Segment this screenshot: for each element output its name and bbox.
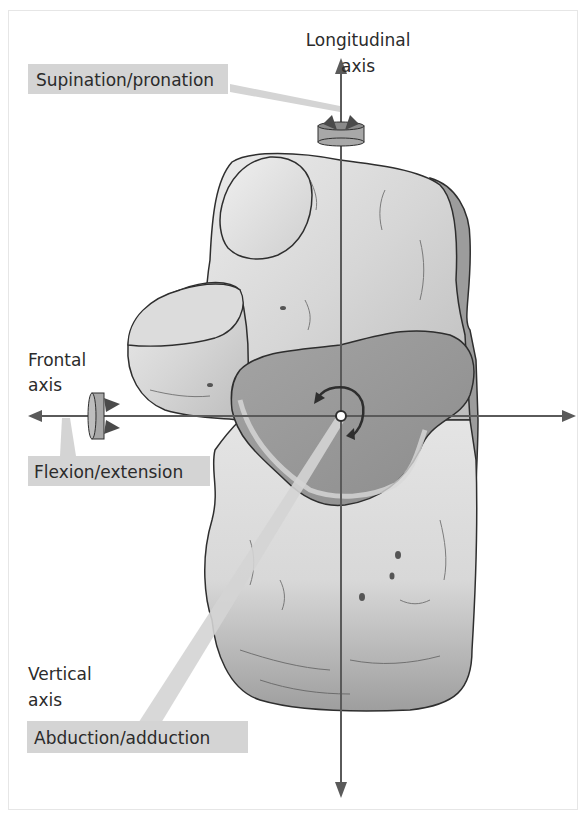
vertical-axis-label-line1: Vertical xyxy=(28,664,92,684)
longitudinal-axis-label-line2: axis xyxy=(341,56,375,76)
flexion-extension-label: Flexion/extension xyxy=(34,462,183,482)
abduction-adduction-label: Abduction/adduction xyxy=(34,728,210,748)
supination-pronation-label: Supination/pronation xyxy=(36,70,214,90)
frontal-axis-label-line1: Frontal xyxy=(28,350,86,370)
longitudinal-axis-callout-pointer xyxy=(230,84,340,112)
talus-axes-diagram: Supination/pronation Flexion/extension A… xyxy=(0,0,587,822)
longitudinal-axis-arrowhead-bottom xyxy=(335,782,347,798)
axes-intersection-point xyxy=(336,411,346,421)
frontal-axis-label-line2: axis xyxy=(28,375,62,395)
frontal-axis-callout-pointer xyxy=(60,418,76,456)
vertical-axis-label-line2: axis xyxy=(28,690,62,710)
frontal-axis-arrowhead-right xyxy=(562,410,576,422)
longitudinal-axis-label-line1: Longitudinal xyxy=(306,30,411,50)
frontal-axis-arrowhead-left xyxy=(28,410,42,422)
